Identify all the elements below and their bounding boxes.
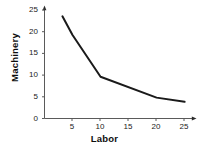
x-tick-label-20: 20 [149,123,163,131]
x-axis-arrow-icon [192,117,197,121]
x-tick-label-5: 5 [65,123,79,131]
x-tick-label-10: 10 [93,123,107,131]
x-axis-title: Labor [0,133,209,144]
y-axis-arrow-icon [43,6,47,11]
chart-container: 25 20 15 10 5 0 5 10 15 20 25 Labor Mach… [0,0,209,148]
y-axis-title: Machinery [9,18,20,98]
y-tick-label-5: 5 [24,93,38,101]
x-tick-label-25: 25 [177,123,191,131]
y-tick-label-25: 25 [24,6,38,14]
x-tick-label-15: 15 [121,123,135,131]
data-series-isoquant [62,16,184,102]
y-tick-label-20: 20 [24,28,38,36]
y-tick-label-0: 0 [24,115,38,123]
y-tick-label-10: 10 [24,71,38,79]
y-tick-label-15: 15 [24,49,38,57]
